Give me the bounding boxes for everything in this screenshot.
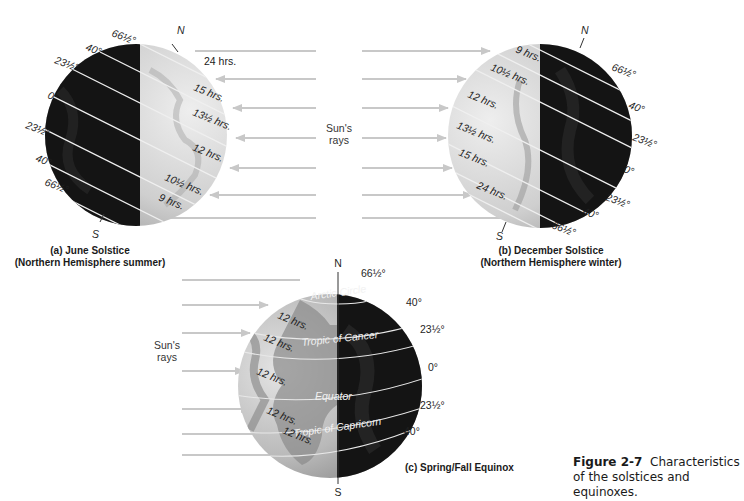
sun-rays-label-bottom: Sun's (154, 339, 180, 351)
lat-label-a-3: 23½° (52, 53, 80, 73)
lat-label-c-6: 40° (404, 425, 420, 437)
north-label-a: N (177, 24, 185, 36)
lat-label-b-5: 23½° (603, 190, 631, 210)
north-label-b: N (581, 24, 589, 36)
south-label-c: S (334, 486, 341, 497)
sun-rays-label-top: Sun's (326, 122, 352, 134)
north-label-c: N (334, 257, 342, 269)
figure-caption-line2: of the solstices and equinoxes. (573, 470, 690, 499)
lat-label-c-3: 23½° (420, 323, 445, 335)
figure-number: Figure 2-7 (573, 455, 642, 469)
globe-june-solstice: N S 66½° 40° 23½° 0° 23½° 40° 66½° 24 hr… (15, 24, 260, 268)
south-label-a: S (92, 228, 99, 240)
lat-label-c-2: 40° (406, 296, 422, 308)
south-label-b: S (496, 230, 503, 242)
lat-label-c-1: 66½° (361, 267, 386, 279)
sun-rays-label-bottom-2: rays (157, 351, 177, 363)
lat-label-b-3: 23½° (630, 130, 658, 150)
lat-label-a-1: 66½° (110, 27, 137, 47)
caption-title-b: (b) December Solstice (498, 245, 603, 256)
lat-label-b-2: 40° (627, 99, 646, 116)
lat-label-b-1: 66½° (610, 61, 637, 81)
day-length-a-1: 24 hrs. (204, 55, 236, 67)
lat-label-c-4: 0° (428, 361, 438, 373)
sun-rays-label-top-2: rays (329, 134, 349, 146)
figure-caption-line1: Characteristics (650, 455, 740, 469)
caption-subtitle-a: (Northern Hemisphere summer) (15, 257, 166, 268)
north-pole-axis (580, 38, 584, 48)
caption-subtitle-b: (Northern Hemisphere winter) (480, 257, 621, 268)
caption-title-a: (a) June Solstice (50, 245, 130, 256)
equator-label: Equator (315, 390, 352, 402)
lat-label-c-5: 23½° (420, 399, 445, 411)
figure-caption: Figure 2-7 Characteristics of the solsti… (573, 455, 744, 500)
north-pole-axis (172, 44, 178, 52)
caption-title-c: (c) Spring/Fall Equinox (405, 462, 514, 473)
globe-december-solstice: N S 66½° 40° 23½° 0° 23½° 40° 66½° 9 hrs… (440, 24, 659, 268)
globe-equinox: N S 66½° 40° 23½° 0° 23½° 40° Arctic Cir… (230, 257, 514, 497)
